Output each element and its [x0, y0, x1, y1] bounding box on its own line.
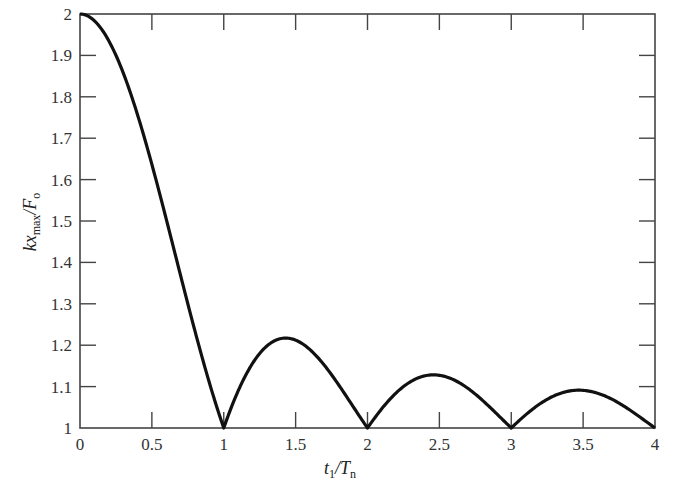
- y-tick-label: 1.3: [51, 295, 72, 314]
- x-tick-label: 3.5: [573, 435, 594, 454]
- tick-labels: 00.511.522.533.5411.11.21.31.41.51.61.71…: [51, 5, 660, 454]
- x-tick-label: 1.5: [285, 435, 306, 454]
- x-tick-label: 4: [651, 435, 660, 454]
- x-tick-label: 0: [76, 435, 85, 454]
- x-tick-label: 2.5: [429, 435, 450, 454]
- y-tick-label: 1.9: [51, 46, 72, 65]
- x-axis-label: t1/Tn: [324, 458, 356, 481]
- y-axis-label: kxmax/Fo: [20, 193, 43, 252]
- y-tick-label: 1.6: [51, 171, 72, 190]
- y-tick-label: 1: [64, 419, 73, 438]
- y-tick-label: 1.4: [51, 253, 73, 272]
- y-tick-label: 2: [64, 5, 73, 24]
- y-tick-label: 1.1: [51, 378, 72, 397]
- y-tick-label: 1.7: [51, 129, 73, 148]
- data-line: [80, 14, 655, 428]
- y-tick-label: 1.8: [51, 88, 72, 107]
- x-tick-label: 0.5: [141, 435, 162, 454]
- y-tick-label: 1.5: [51, 212, 72, 231]
- x-tick-label: 3: [507, 435, 516, 454]
- y-tick-label: 1.2: [51, 336, 72, 355]
- chart: 00.511.522.533.5411.11.21.31.41.51.61.71…: [0, 0, 674, 492]
- x-tick-label: 2: [363, 435, 372, 454]
- x-tick-label: 1: [220, 435, 229, 454]
